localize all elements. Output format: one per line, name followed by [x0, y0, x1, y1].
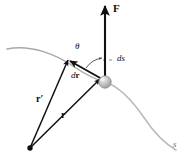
particle-sphere: [99, 76, 111, 88]
dr-r-part: r: [76, 70, 80, 80]
dr-displacement-label: dr: [71, 71, 80, 80]
particle-highlight: [101, 78, 105, 81]
r-label: r: [61, 110, 65, 120]
r-prime-vector-arrow: [30, 60, 68, 148]
theta-angle-arc: [86, 58, 102, 68]
force-label: F: [113, 3, 120, 14]
origin-point: [27, 145, 32, 150]
ds-arc-length-label: ds: [117, 54, 125, 63]
physics-diagram-figure: F θ ds dr r′ r s: [0, 0, 190, 166]
path-parameter-label: s: [173, 140, 177, 149]
r-prime-label: r′: [36, 94, 43, 104]
diagram-canvas: [0, 0, 190, 166]
path-curve-left: [7, 48, 105, 82]
theta-angle-label: θ: [75, 42, 79, 51]
path-curve-right: [105, 82, 176, 150]
